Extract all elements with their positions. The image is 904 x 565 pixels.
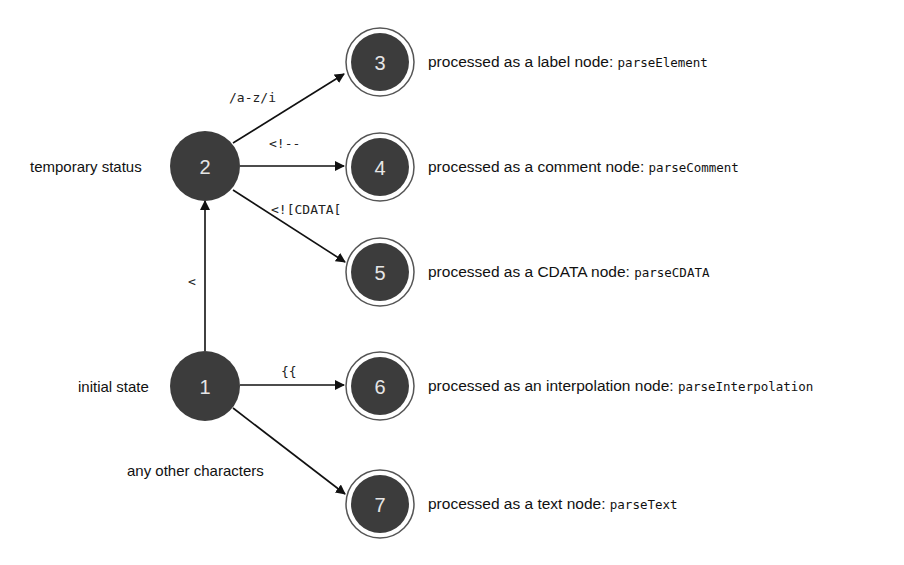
svg-text:7: 7 bbox=[374, 494, 385, 516]
svg-text:3: 3 bbox=[374, 52, 385, 74]
edge-2-to-3 bbox=[233, 74, 344, 143]
state-3-description: processed as a label node: parseElement bbox=[428, 53, 708, 71]
description-text: processed as a label node: bbox=[428, 53, 618, 70]
state-node-4: 4 bbox=[346, 133, 414, 201]
state-node-6: 6 bbox=[346, 352, 414, 420]
edge-label-other: any other characters bbox=[127, 462, 264, 479]
description-text: processed as a text node: bbox=[428, 495, 610, 512]
state-6-description: processed as an interpolation node: pars… bbox=[428, 377, 813, 395]
edge-label-interpolation: {{ bbox=[281, 364, 297, 379]
svg-text:4: 4 bbox=[374, 157, 385, 179]
edge-2-to-5 bbox=[233, 190, 345, 262]
state-7-description: processed as a text node: parseText bbox=[428, 495, 678, 513]
function-name: parseText bbox=[610, 497, 678, 512]
state-node-3: 3 bbox=[346, 28, 414, 96]
description-text: processed as a comment node: bbox=[428, 158, 649, 175]
svg-text:6: 6 bbox=[374, 376, 385, 398]
state-node-7: 7 bbox=[346, 470, 414, 538]
edge-label-lt: < bbox=[188, 274, 196, 289]
state-node-2: 2 bbox=[170, 131, 240, 201]
description-text: processed as a CDATA node: bbox=[428, 263, 634, 280]
edge-label-a-z: /a-z/i bbox=[229, 90, 276, 105]
edge-label-cdata: <![CDATA[ bbox=[271, 202, 341, 217]
svg-text:1: 1 bbox=[199, 376, 210, 398]
state-node-1: 1 bbox=[170, 351, 240, 421]
state-4-description: processed as a comment node: parseCommen… bbox=[428, 158, 739, 176]
state-1-label: initial state bbox=[78, 378, 149, 395]
state-5-description: processed as a CDATA node: parseCDATA bbox=[428, 263, 709, 281]
description-text: processed as an interpolation node: bbox=[428, 377, 678, 394]
edge-label-comment: <!-- bbox=[269, 136, 300, 151]
svg-text:2: 2 bbox=[199, 156, 210, 178]
state-diagram: < /a-z/i <!-- <![CDATA[ {{ any other cha… bbox=[0, 0, 904, 565]
function-name: parseInterpolation bbox=[678, 379, 813, 394]
function-name: parseElement bbox=[618, 55, 708, 70]
function-name: parseComment bbox=[649, 160, 739, 175]
state-node-5: 5 bbox=[346, 238, 414, 306]
function-name: parseCDATA bbox=[634, 265, 709, 280]
edge-1-to-7 bbox=[233, 408, 345, 494]
state-2-label: temporary status bbox=[30, 158, 142, 175]
svg-text:5: 5 bbox=[374, 262, 385, 284]
